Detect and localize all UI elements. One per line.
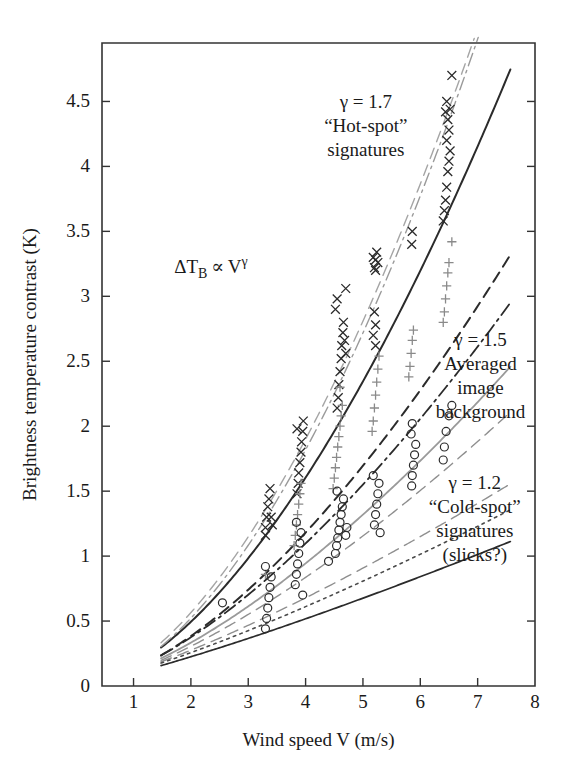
y-axis-title: Brightness temperature contrast (K) bbox=[19, 228, 41, 501]
fit-curve bbox=[161, 38, 474, 642]
data-point-x bbox=[261, 523, 270, 532]
data-point-circle bbox=[336, 518, 344, 526]
data-point-x bbox=[336, 367, 345, 376]
data-point-circle bbox=[439, 456, 447, 464]
x-axis-ticks: 12345678 bbox=[129, 678, 540, 712]
x-tick-label: 5 bbox=[358, 691, 368, 712]
data-point-plus bbox=[332, 453, 341, 462]
data-point-x bbox=[334, 393, 343, 402]
data-point-plus bbox=[294, 500, 303, 509]
annotation-line: Averaged bbox=[444, 353, 517, 374]
y-tick-label: 2.5 bbox=[66, 350, 90, 371]
data-point-x bbox=[446, 146, 455, 155]
y-tick-label: 0 bbox=[81, 675, 91, 696]
data-point-plus bbox=[440, 307, 449, 316]
y-tick-label: 4 bbox=[81, 155, 91, 176]
data-point-plus bbox=[293, 510, 302, 519]
data-point-x bbox=[408, 227, 417, 236]
data-point-x bbox=[442, 183, 451, 192]
data-point-plus bbox=[409, 325, 418, 334]
annotation-line: image bbox=[457, 377, 503, 398]
x-axis-title: Wind speed V (m/s) bbox=[242, 729, 394, 751]
annotation-line: γ = 1.7 bbox=[339, 91, 392, 112]
x-tick-label: 3 bbox=[243, 691, 253, 712]
data-point-x bbox=[268, 521, 277, 530]
data-point-plus bbox=[444, 258, 453, 267]
data-point-x bbox=[339, 318, 348, 327]
data-series bbox=[261, 237, 457, 579]
data-point-plus bbox=[331, 463, 340, 472]
data-point-x bbox=[407, 240, 416, 249]
data-point-plus bbox=[368, 427, 377, 436]
data-point-plus bbox=[338, 401, 347, 410]
data-point-circle bbox=[261, 625, 269, 633]
chart-canvas: 12345678 00.511.522.533.544.5 ΔTB ∝ Vγγ … bbox=[0, 0, 566, 783]
data-point-x bbox=[442, 97, 451, 106]
data-point-circle bbox=[440, 443, 448, 451]
x-tick-label: 7 bbox=[473, 691, 483, 712]
data-point-x bbox=[441, 196, 450, 205]
annotation-line: signatures bbox=[327, 139, 404, 160]
data-point-plus bbox=[404, 372, 413, 381]
data-point-plus bbox=[439, 318, 448, 327]
annotation-line: γ = 1.5 bbox=[453, 329, 506, 350]
data-point-x bbox=[263, 502, 272, 511]
data-point-circle bbox=[374, 490, 382, 498]
data-point-x bbox=[294, 469, 303, 478]
data-point-x bbox=[445, 157, 454, 166]
data-point-circle bbox=[376, 529, 384, 537]
x-tick-label: 6 bbox=[416, 691, 426, 712]
data-point-circle bbox=[325, 557, 333, 565]
data-point-circle bbox=[335, 526, 343, 534]
data-point-circle bbox=[333, 542, 341, 550]
data-point-circle bbox=[264, 604, 272, 612]
data-point-x bbox=[442, 136, 451, 145]
data-point-x bbox=[441, 107, 450, 116]
data-point-plus bbox=[373, 364, 382, 373]
x-tick-label: 4 bbox=[301, 691, 311, 712]
data-point-plus bbox=[334, 432, 343, 441]
data-point-plus bbox=[441, 294, 450, 303]
data-point-circle bbox=[412, 440, 420, 448]
annotation-line: “Cold-spot” bbox=[429, 496, 521, 517]
data-point-circle bbox=[342, 531, 350, 539]
data-point-plus bbox=[370, 403, 379, 412]
y-tick-label: 3 bbox=[81, 285, 91, 306]
y-tick-label: 0.5 bbox=[66, 610, 90, 631]
annotations-layer: ΔTB ∝ Vγγ = 1.7“Hot-spot”signaturesγ = 1… bbox=[174, 91, 526, 566]
data-point-plus bbox=[442, 281, 451, 290]
data-point-circle bbox=[408, 482, 416, 490]
data-point-x bbox=[267, 513, 276, 522]
data-point-x bbox=[297, 437, 306, 446]
x-tick-label: 8 bbox=[530, 691, 540, 712]
data-point-circle bbox=[297, 529, 305, 537]
data-point-x bbox=[261, 531, 270, 540]
data-point-circle bbox=[339, 495, 347, 503]
data-point-circle bbox=[408, 420, 416, 428]
data-point-plus bbox=[405, 362, 414, 371]
data-point-plus bbox=[330, 474, 339, 483]
data-point-circle bbox=[372, 511, 380, 519]
data-point-x bbox=[262, 513, 271, 522]
annotation-line: “Hot-spot” bbox=[324, 115, 407, 136]
data-point-circle bbox=[375, 479, 383, 487]
data-point-x bbox=[338, 328, 347, 337]
data-point-plus bbox=[408, 336, 417, 345]
y-tick-label: 3.5 bbox=[66, 220, 90, 241]
data-point-plus bbox=[443, 268, 452, 277]
data-point-x bbox=[299, 417, 308, 426]
figure-container: 12345678 00.511.522.533.544.5 ΔTB ∝ Vγγ … bbox=[0, 0, 566, 783]
data-point-x bbox=[372, 248, 381, 257]
annotation-line: signatures bbox=[436, 520, 513, 541]
data-point-x bbox=[333, 295, 342, 304]
data-point-circle bbox=[296, 539, 304, 547]
data-point-x bbox=[371, 341, 380, 350]
y-tick-label: 4.5 bbox=[66, 90, 90, 111]
data-point-circle bbox=[265, 594, 273, 602]
x-tick-label: 2 bbox=[186, 691, 196, 712]
data-point-x bbox=[373, 258, 382, 267]
fit-curve bbox=[161, 255, 510, 656]
y-tick-label: 1.5 bbox=[66, 480, 90, 501]
data-point-plus bbox=[369, 416, 378, 425]
data-point-plus bbox=[371, 390, 380, 399]
